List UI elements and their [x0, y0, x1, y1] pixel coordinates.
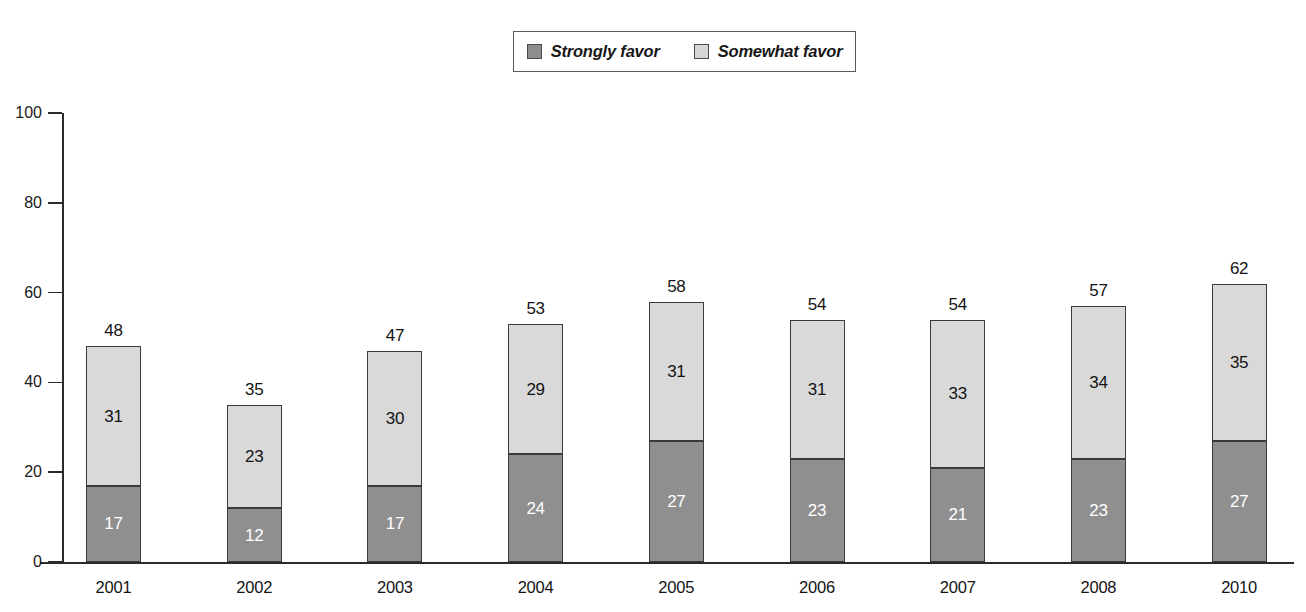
bar-segment-value: 27: [1230, 493, 1248, 510]
bar-segment-value: 31: [808, 381, 826, 398]
y-axis-tick: [48, 112, 62, 114]
bar-total-label: 53: [526, 299, 544, 319]
bar-total-label: 54: [808, 295, 826, 315]
bar-segment-value: 31: [104, 408, 122, 425]
bar-segment-value: 17: [104, 515, 122, 532]
bar-segment-value: 30: [386, 410, 404, 427]
bar-segment-value: 31: [667, 363, 685, 380]
bar-segment-value: 23: [808, 502, 826, 519]
bar-segment-value: 21: [949, 506, 967, 523]
bar-segment-strongly-favor: 23: [790, 459, 845, 562]
bar-segment-value: 34: [1089, 374, 1107, 391]
bar-segment-value: 33: [949, 385, 967, 402]
bar-segment-somewhat-favor: 30: [367, 351, 422, 486]
bar-stack-2006: 312354: [790, 320, 845, 562]
y-axis-tick-label: 60: [2, 284, 42, 302]
bar-total-label: 48: [104, 321, 122, 341]
bar-segment-strongly-favor: 27: [649, 441, 704, 562]
y-axis-tick: [48, 471, 62, 473]
bar-stack-2005: 312758: [649, 302, 704, 562]
bar-segment-strongly-favor: 17: [367, 486, 422, 562]
bar-segment-somewhat-favor: 23: [227, 405, 282, 508]
x-axis-label-2010: 2010: [1221, 578, 1257, 597]
y-axis-tick: [48, 561, 62, 563]
bar-segment-strongly-favor: 27: [1212, 441, 1267, 562]
y-axis-tick-label: 100: [2, 104, 42, 122]
bar-segment-value: 23: [1089, 502, 1107, 519]
bar-segment-strongly-favor: 23: [1071, 459, 1126, 562]
bar-segment-strongly-favor: 24: [508, 454, 563, 562]
x-axis-label-2004: 2004: [518, 578, 554, 597]
bar-segment-somewhat-favor: 33: [930, 320, 985, 468]
y-axis-tick-label: 80: [2, 194, 42, 212]
bar-stack-2003: 301747: [367, 351, 422, 562]
stacked-bar-chart: 020406080100 311748231235301747292453312…: [0, 0, 1306, 612]
y-axis-tick-label: 0: [2, 553, 42, 571]
y-axis-tick: [48, 202, 62, 204]
bar-stack-2001: 311748: [86, 346, 141, 562]
x-axis-label-2001: 2001: [96, 578, 132, 597]
bar-total-label: 54: [949, 295, 967, 315]
y-axis-tick-label: 40: [2, 373, 42, 391]
bar-segment-value: 23: [245, 448, 263, 465]
bar-stack-2002: 231235: [227, 405, 282, 562]
x-axis-label-2005: 2005: [658, 578, 694, 597]
bar-stack-2007: 332154: [930, 320, 985, 562]
bar-segment-value: 12: [245, 527, 263, 544]
x-axis-line: [40, 562, 1294, 564]
bar-segment-somewhat-favor: 31: [790, 320, 845, 459]
x-axis-label-2007: 2007: [940, 578, 976, 597]
x-axis-label-2008: 2008: [1080, 578, 1116, 597]
x-axis-label-2002: 2002: [236, 578, 272, 597]
bar-stack-2008: 342357: [1071, 306, 1126, 562]
bar-stack-2004: 292453: [508, 324, 563, 562]
bar-segment-strongly-favor: 12: [227, 508, 282, 562]
bar-total-label: 47: [386, 326, 404, 346]
bar-segment-somewhat-favor: 31: [86, 346, 141, 485]
y-axis-line: [62, 113, 64, 563]
bar-total-label: 57: [1089, 281, 1107, 301]
y-axis-tick: [48, 292, 62, 294]
bar-segment-somewhat-favor: 29: [508, 324, 563, 454]
y-axis-tick-label: 20: [2, 463, 42, 481]
bar-segment-value: 17: [386, 515, 404, 532]
bar-segment-somewhat-favor: 35: [1212, 284, 1267, 441]
bar-total-label: 62: [1230, 259, 1248, 279]
y-axis-tick: [48, 382, 62, 384]
bar-total-label: 35: [245, 380, 263, 400]
bar-segment-somewhat-favor: 34: [1071, 306, 1126, 459]
bar-segment-value: 29: [526, 381, 544, 398]
bar-total-label: 58: [667, 277, 685, 297]
x-axis-label-2003: 2003: [377, 578, 413, 597]
bar-segment-strongly-favor: 17: [86, 486, 141, 562]
bar-segment-somewhat-favor: 31: [649, 302, 704, 441]
bar-segment-value: 27: [667, 493, 685, 510]
x-axis-label-2006: 2006: [799, 578, 835, 597]
bar-stack-2010: 352762: [1212, 284, 1267, 562]
bar-segment-strongly-favor: 21: [930, 468, 985, 562]
bar-segment-value: 35: [1230, 354, 1248, 371]
bar-segment-value: 24: [526, 500, 544, 517]
